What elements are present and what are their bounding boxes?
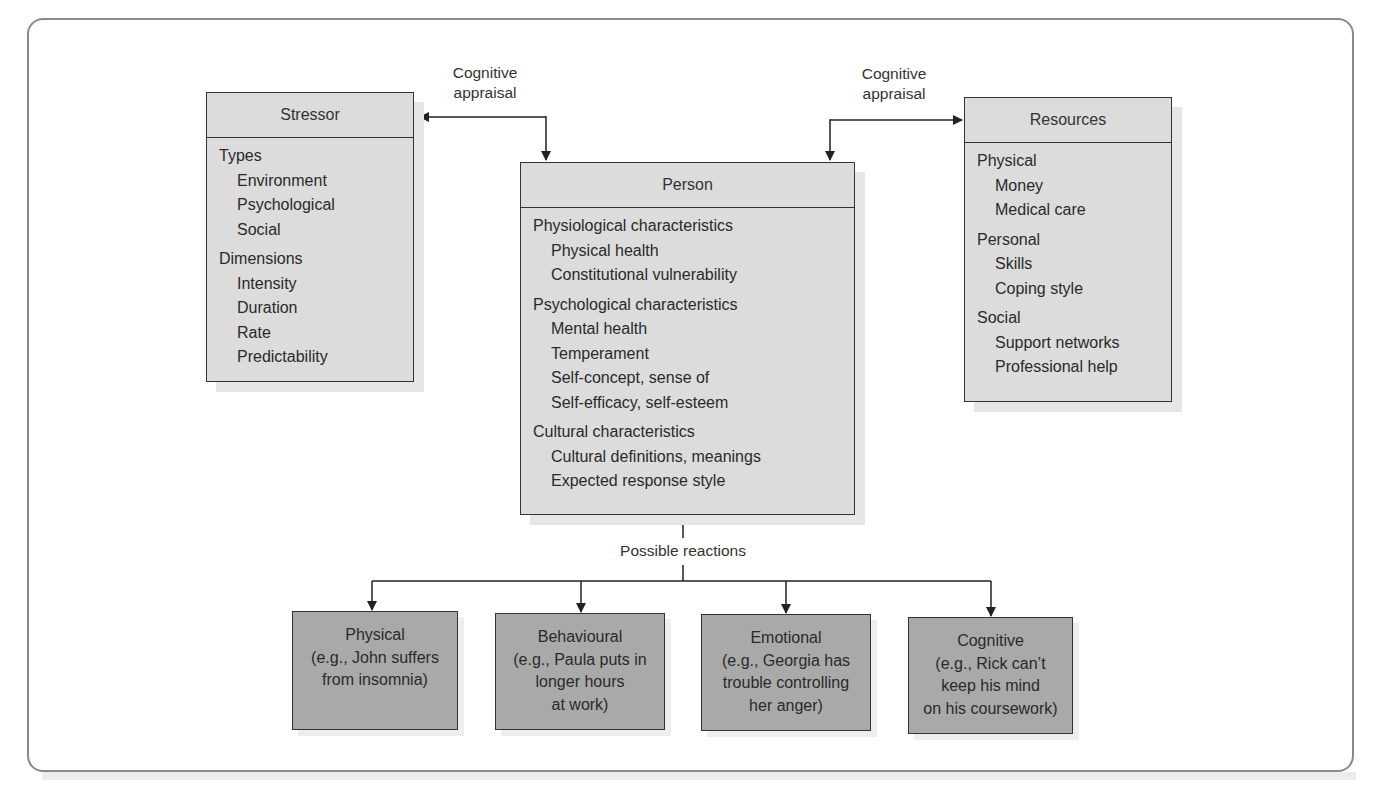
- label-line: appraisal: [849, 84, 939, 104]
- group-item: Coping style: [977, 277, 1161, 302]
- group-item: Constitutional vulnerability: [533, 263, 844, 288]
- resources-group-social: Social Support networks Professional hel…: [977, 306, 1161, 380]
- group-item: Environment: [219, 169, 403, 194]
- reaction-line: at work): [552, 694, 609, 717]
- reaction-behavioural: Behavioural (e.g., Paula puts in longer …: [495, 613, 665, 730]
- person-group-cultural: Cultural characteristics Cultural defini…: [533, 420, 844, 494]
- reaction-line: (e.g., Paula puts in: [513, 649, 646, 672]
- group-title: Psychological characteristics: [533, 293, 844, 318]
- group-title: Physical: [977, 149, 1161, 174]
- person-group-physiological: Physiological characteristics Physical h…: [533, 214, 844, 288]
- group-item: Intensity: [219, 272, 403, 297]
- group-item: Psychological: [219, 193, 403, 218]
- label-line: Cognitive: [440, 63, 530, 83]
- label-line: appraisal: [440, 83, 530, 103]
- reaction-line: trouble controlling: [723, 672, 849, 695]
- group-item: Medical care: [977, 198, 1161, 223]
- reaction-line: keep his mind: [941, 675, 1040, 698]
- group-item: Self-efficacy, self-esteem: [533, 391, 844, 416]
- group-item: Duration: [219, 296, 403, 321]
- reaction-line: from insomnia): [322, 669, 428, 692]
- reaction-line: on his coursework): [923, 698, 1057, 721]
- group-title: Types: [219, 144, 403, 169]
- group-item: Temperament: [533, 342, 844, 367]
- group-item: Skills: [977, 252, 1161, 277]
- group-item: Self-concept, sense of: [533, 366, 844, 391]
- group-title: Physiological characteristics: [533, 214, 844, 239]
- reaction-line: longer hours: [536, 671, 625, 694]
- group-item: Expected response style: [533, 469, 844, 494]
- reaction-title: Physical: [345, 624, 405, 647]
- group-item: Predictability: [219, 345, 403, 370]
- reaction-cognitive: Cognitive (e.g., Rick can’t keep his min…: [908, 617, 1073, 734]
- reaction-emotional: Emotional (e.g., Georgia has trouble con…: [701, 614, 871, 731]
- reaction-line: (e.g., Rick can’t: [935, 653, 1045, 676]
- person-group-psychological: Psychological characteristics Mental hea…: [533, 293, 844, 416]
- reaction-physical: Physical (e.g., John suffers from insomn…: [292, 611, 458, 730]
- group-title: Cultural characteristics: [533, 420, 844, 445]
- group-item: Cultural definitions, meanings: [533, 445, 844, 470]
- stressor-box: Stressor Types Environment Psychological…: [206, 92, 414, 382]
- reaction-line: her anger): [749, 695, 823, 718]
- person-title: Person: [521, 163, 854, 208]
- group-title: Dimensions: [219, 247, 403, 272]
- label-line: Cognitive: [849, 64, 939, 84]
- group-item: Rate: [219, 321, 403, 346]
- resources-box: Resources Physical Money Medical care Pe…: [964, 97, 1172, 402]
- group-item: Support networks: [977, 331, 1161, 356]
- resources-group-physical: Physical Money Medical care: [977, 149, 1161, 223]
- group-item: Physical health: [533, 239, 844, 264]
- group-item: Social: [219, 218, 403, 243]
- stressor-title: Stressor: [207, 93, 413, 138]
- person-box: Person Physiological characteristics Phy…: [520, 162, 855, 515]
- resources-group-personal: Personal Skills Coping style: [977, 228, 1161, 302]
- cognitive-appraisal-label-right: Cognitive appraisal: [849, 64, 939, 104]
- reaction-title: Emotional: [750, 627, 821, 650]
- reaction-line: (e.g., John suffers: [311, 647, 439, 670]
- group-item: Money: [977, 174, 1161, 199]
- group-item: Professional help: [977, 355, 1161, 380]
- stressor-group-types: Types Environment Psychological Social: [219, 144, 403, 242]
- reaction-line: (e.g., Georgia has: [722, 650, 850, 673]
- stressor-group-dimensions: Dimensions Intensity Duration Rate Predi…: [219, 247, 403, 370]
- reaction-title: Behavioural: [538, 626, 623, 649]
- possible-reactions-label: Possible reactions: [603, 541, 763, 561]
- group-title: Social: [977, 306, 1161, 331]
- resources-title: Resources: [965, 98, 1171, 143]
- group-item: Mental health: [533, 317, 844, 342]
- cognitive-appraisal-label-left: Cognitive appraisal: [440, 63, 530, 103]
- group-title: Personal: [977, 228, 1161, 253]
- reaction-title: Cognitive: [957, 630, 1024, 653]
